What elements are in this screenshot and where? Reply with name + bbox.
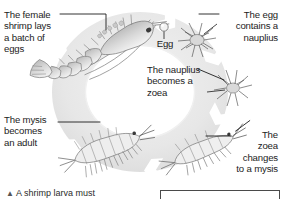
figure-caption: ▲A shrimp larva must <box>6 188 146 199</box>
caption-side-box <box>160 190 280 199</box>
label-female-shrimp-lays-eggs: The female shrimp lays a batch of eggs <box>4 9 76 55</box>
caption-bullet-icon: ▲ <box>6 189 14 198</box>
label-nauplius-becomes-zoea: The nauplius becomes a zoea <box>147 64 223 98</box>
caption-text: A shrimp larva must <box>16 188 95 198</box>
figure-shrimp-life-cycle: The female shrimp lays a batch of eggs T… <box>0 0 281 199</box>
label-egg-contains-nauplius: The egg contains a nauplius <box>221 9 278 43</box>
label-mysis-becomes-adult: The mysis becomes an adult <box>4 114 74 148</box>
label-zoea-changes-to-mysis: The zoea changes to a mysis <box>233 129 278 175</box>
label-egg: Egg <box>150 38 180 49</box>
